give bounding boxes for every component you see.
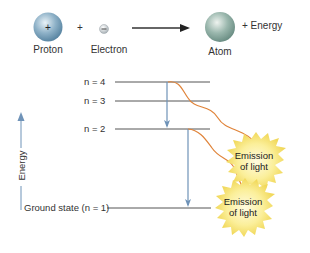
level-label-n2: n = 2 <box>84 123 105 134</box>
emission-1-line2: of light <box>233 161 275 172</box>
energy-axis-label: Energy <box>16 146 27 186</box>
atom-sphere <box>205 12 235 42</box>
svg-text:+: + <box>45 22 51 33</box>
emission-1-line1: Emission <box>233 150 275 161</box>
emission-2-line2: of light <box>222 207 264 218</box>
electron-label: Electron <box>86 44 132 55</box>
reaction-arrow <box>132 24 190 32</box>
emission-2-line1: Emission <box>222 196 264 207</box>
level-label-n3: n = 3 <box>84 95 105 106</box>
emission-label-1: Emission of light <box>233 150 275 172</box>
proton-sphere: + <box>34 13 63 42</box>
energy-output-label: + Energy <box>242 20 282 31</box>
proton-label: Proton <box>27 44 69 55</box>
emission-label-2: Emission of light <box>222 196 264 218</box>
level-label-n4: n = 4 <box>84 76 105 87</box>
electron-sphere <box>100 25 109 34</box>
atom-label: Atom <box>200 46 240 57</box>
plus-sign: + <box>77 22 83 33</box>
energy-levels <box>107 82 211 208</box>
level-label-ground: Ground state (n = 1) <box>24 202 109 213</box>
